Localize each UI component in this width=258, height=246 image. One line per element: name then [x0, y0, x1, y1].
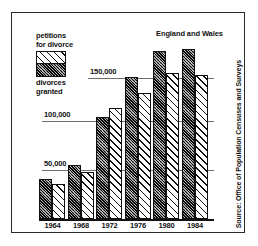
bar-granted: [81, 172, 94, 219]
legend-petitions-label-line1: petitions: [36, 31, 96, 40]
bar-petitions: [182, 49, 195, 219]
bar-petitions: [153, 51, 166, 219]
bar-granted: [166, 73, 179, 219]
bar-granted: [109, 108, 122, 219]
legend-swatch: [36, 51, 66, 77]
bar-petitions: [68, 165, 81, 219]
source-note: Source: Office of Population Censuses an…: [235, 60, 242, 228]
bar-petitions: [125, 77, 138, 219]
x-axis-tick-labels: 196419681972197619801984: [36, 221, 211, 235]
bar-group: [182, 31, 209, 219]
legend-petitions-label-line2: for divorce: [36, 40, 96, 49]
bar-granted: [138, 93, 151, 219]
chart-legend: petitions for divorce divorces granted: [36, 31, 96, 96]
bar-granted: [52, 184, 65, 219]
bar-granted: [195, 75, 208, 219]
bar-petitions: [96, 117, 109, 219]
chart-frame: 150,000 100,000 50,000 19641968197219761…: [11, 12, 245, 233]
bar-group: [153, 31, 180, 219]
chart-screenshot: 150,000 100,000 50,000 19641968197219761…: [0, 0, 258, 246]
legend-swatch-granted-pattern: [37, 63, 65, 76]
legend-granted-label-line2: granted: [36, 87, 96, 96]
chart-title: England and Wales: [156, 29, 223, 38]
x-axis-label-1984: 1984: [178, 221, 212, 230]
bar-group: [96, 31, 123, 219]
bar-petitions: [39, 179, 52, 219]
bar-group: [125, 31, 152, 219]
legend-granted-label-line1: divorces: [36, 78, 96, 87]
